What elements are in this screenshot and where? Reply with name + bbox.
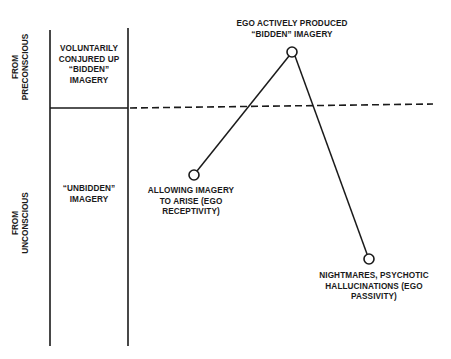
fall-line [295, 56, 367, 254]
from-preconscious-label: FROM PRECONSCIOUS [11, 32, 31, 102]
bidden-imagery-label: VOLUNTARILY CONJURED UP “BIDDEN” IMAGERY [52, 44, 126, 86]
node-receptivity [189, 170, 199, 180]
rise-line [197, 56, 289, 171]
ego-active-label: EGO ACTIVELY PRODUCED “BIDDEN” IMAGERY [236, 19, 348, 40]
divider-dashed-line [130, 104, 433, 108]
node-passivity [364, 254, 374, 264]
unbidden-imagery-label: “UNBIDDEN” IMAGERY [52, 184, 126, 205]
ego-passivity-label: NIGHTMARES, PSYCHOTIC HALLUCINATIONS (EG… [318, 271, 430, 303]
from-unconscious-label: FROM UNCONSCIOUS [11, 188, 31, 258]
ego-receptivity-label: ALLOWING IMAGERY TO ARISE (EGO RECEPTIVI… [145, 186, 237, 218]
node-active [287, 47, 297, 57]
